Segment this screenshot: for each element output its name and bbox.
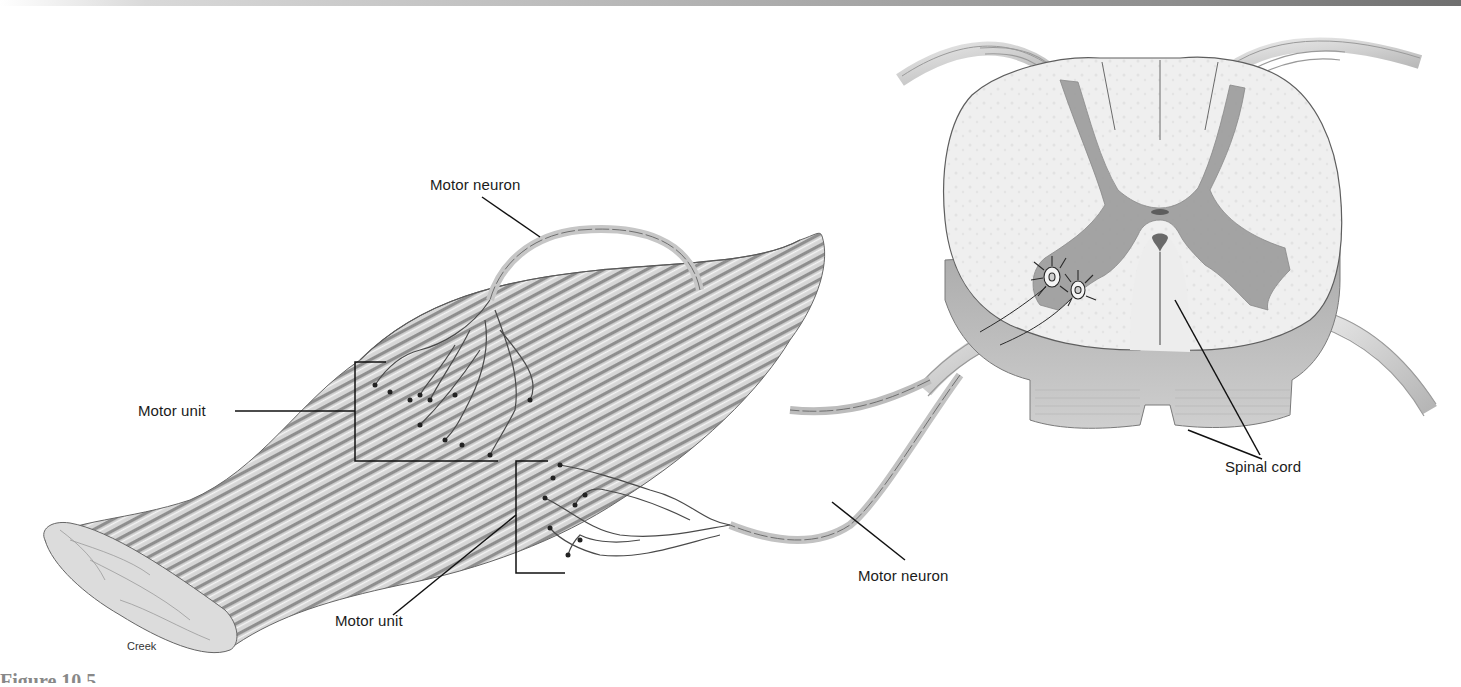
label-motor-neuron-top: Motor neuron: [430, 176, 520, 193]
illustrator-credit: Creek: [127, 640, 156, 652]
label-spinal-cord: Spinal cord: [1225, 458, 1301, 475]
muscle: [44, 233, 825, 652]
figure-caption-partial: Figure 10.5: [0, 670, 96, 687]
label-motor-unit-bottom: Motor unit: [335, 612, 403, 629]
spinal-cord: [944, 57, 1342, 428]
label-motor-neuron-right: Motor neuron: [858, 567, 948, 584]
label-motor-unit-left: Motor unit: [138, 402, 206, 419]
